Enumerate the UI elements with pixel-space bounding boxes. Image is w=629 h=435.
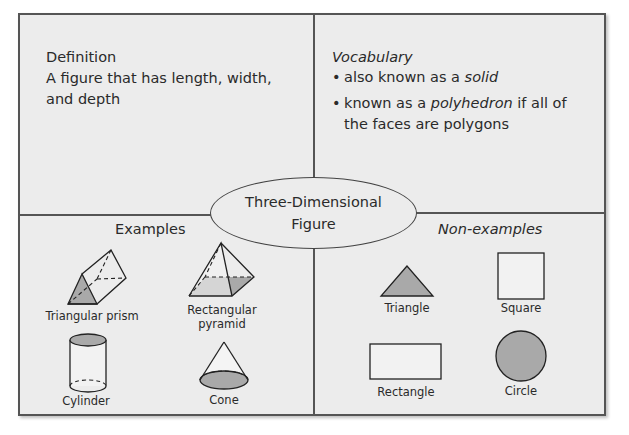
cylinder-label: Cylinder — [46, 394, 126, 408]
cone-label: Cone — [192, 393, 256, 407]
rectangle-icon — [369, 343, 442, 380]
vocabulary-item-text: known as a — [344, 95, 431, 111]
definition-body: A figure that has length, width, and dep… — [46, 68, 296, 110]
vocabulary-title: Vocabulary — [332, 47, 413, 68]
definition-title: Definition — [46, 47, 116, 68]
rectangle-label: Rectangle — [365, 385, 447, 399]
square-label: Square — [486, 301, 556, 315]
examples-title: Examples — [115, 221, 185, 237]
rectangular-pyramid-icon — [187, 241, 257, 297]
triangular-prism-icon — [66, 246, 128, 306]
circle-label: Circle — [486, 384, 556, 398]
cylinder-icon — [68, 333, 108, 393]
square-icon — [497, 252, 545, 300]
center-concept-line2: Figure — [291, 213, 335, 235]
divider-horizontal-left — [18, 214, 213, 216]
vocabulary-term: solid — [465, 69, 499, 85]
triangle-icon — [379, 264, 435, 298]
triangular-prism-label: Triangular prism — [34, 309, 150, 323]
non-examples-title: Non-examples — [438, 221, 542, 237]
vocabulary-item: known as a polyhedron if all of the face… — [332, 93, 592, 135]
vocabulary-list: also known as a solid known as a polyhed… — [332, 67, 592, 140]
center-concept-line1: Three-Dimensional — [245, 191, 382, 213]
circle-icon — [495, 330, 547, 382]
divider-vertical-bottom — [313, 248, 315, 416]
divider-vertical-top — [313, 13, 315, 179]
vocabulary-term: polyhedron — [431, 95, 513, 111]
center-concept-oval: Three-Dimensional Figure — [210, 177, 417, 249]
vocabulary-item: also known as a solid — [332, 67, 592, 88]
divider-horizontal-right — [415, 212, 606, 214]
triangle-label: Triangle — [372, 301, 442, 315]
rectangular-pyramid-label-line2: pyramid — [172, 317, 272, 331]
vocabulary-item-text: also known as a — [344, 69, 465, 85]
rectangular-pyramid-label: Rectangular pyramid — [172, 303, 272, 331]
rectangular-pyramid-label-line1: Rectangular — [172, 303, 272, 317]
cone-icon — [198, 340, 250, 392]
